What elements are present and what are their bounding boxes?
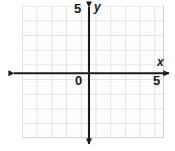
major-gridlines bbox=[22, 6, 164, 138]
y-axis-tick-label-5: 5 bbox=[74, 2, 81, 15]
x-axis-tick-label-5: 5 bbox=[153, 74, 160, 87]
x-axis-name-label: x bbox=[157, 56, 164, 68]
y-axis-name-label: y bbox=[94, 1, 101, 13]
graph-canvas bbox=[0, 0, 175, 151]
coordinate-grid-figure: 5 0 5 x y bbox=[0, 0, 175, 151]
origin-label: 0 bbox=[75, 74, 82, 87]
